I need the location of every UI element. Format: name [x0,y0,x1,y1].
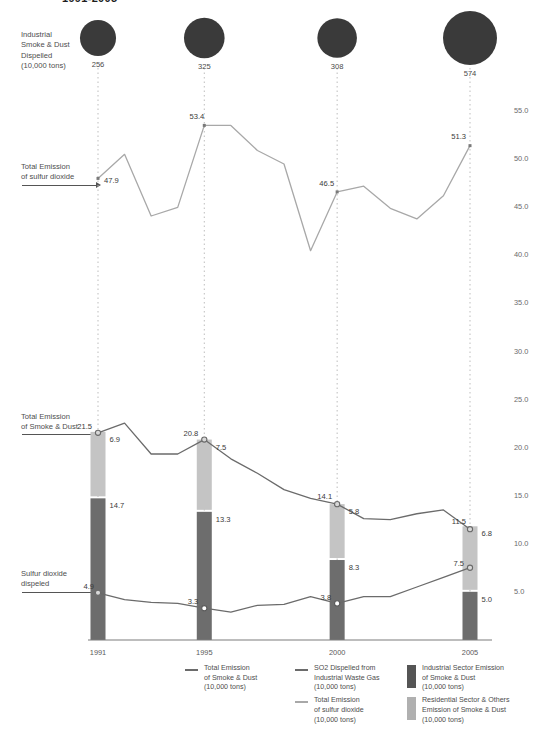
point-marker-so2-total-1995 [203,124,206,127]
bar-label-residential-1991: 6.9 [110,435,121,444]
bubble-label-2000: 308 [331,62,344,71]
legend-item-label: Total Emission of Smoke & Dust (10,000 t… [204,664,285,693]
bubble-1991 [80,20,116,56]
line-series-0 [98,125,470,250]
point-label-so2-total-2000: 46.5 [319,179,334,188]
legend-item: SO2 Dispelled from Industrial Waste Gas … [295,664,400,693]
point-label-smoke-total-1995: 20.8 [184,429,199,438]
bubble-2000 [317,18,357,58]
legend-box-swatch-icon [407,665,416,688]
point-label-so2-industrial-2005: 7.5 [453,559,464,568]
legend-item-label: Residential Sector & Others Emission of … [422,696,537,725]
point-marker-so2-total-2000 [336,190,339,193]
point-label-so2-total-2005: 51.3 [451,132,466,141]
x-axis-layer: 1991199520002005 [88,640,492,657]
point-marker-smoke-total-1991 [95,430,100,435]
line-series-layer [98,125,470,612]
point-label-so2-industrial-1991: 4.9 [83,582,94,591]
point-label-so2-total-1995: 53.4 [190,112,205,121]
point-marker-smoke-total-2000 [335,502,340,507]
point-marker-so2-industrial-1991 [95,590,100,595]
legend-line-swatch-icon [185,669,198,671]
legend-box-swatch-icon [407,697,416,720]
bubble-label-1991: 256 [92,60,105,69]
line-series-1 [98,423,470,529]
bar-label-industrial-2005: 5.0 [482,595,493,604]
point-label-so2-industrial-1995: 3.3 [188,597,199,606]
bubble-2005 [443,11,497,65]
data-labels-layer: 47.953.446.551.321.520.814.111.54.93.33.… [77,112,492,610]
point-marker-so2-industrial-2005 [467,565,472,570]
y-axis-tick-25.0: 25.0 [514,395,528,404]
chart-plot-area: 256325308574 55.050.045.040.035.030.025.… [0,0,537,660]
point-marker-so2-total-2005 [469,144,472,147]
point-marker-so2-total-1991 [97,177,100,180]
stacked-bars-layer [91,432,478,640]
bubbles-layer: 256325308574 [80,11,497,78]
legend-item-label: Total Emission of sulfur dioxide (10,000… [314,696,400,725]
bar-label-residential-2000: 5.8 [349,507,360,516]
legend-line-swatch-icon [295,701,308,703]
y-axis-tick-15.0: 15.0 [514,491,528,500]
bubble-1995 [184,18,225,59]
legend-item: Total Emission of Smoke & Dust (10,000 t… [185,664,285,693]
bar-residential-2005 [463,526,478,590]
x-axis-tick-2000: 2000 [329,648,345,657]
bar-industrial-2000 [330,560,345,640]
bar-industrial-1995 [197,512,212,640]
y-axis-tick-10.0: 10.0 [514,539,528,548]
legend-item: Residential Sector & Others Emission of … [407,696,537,725]
y-axis-tick-35.0: 35.0 [514,298,528,307]
bar-label-industrial-2000: 8.3 [349,563,360,572]
bar-residential-2000 [330,504,345,558]
x-axis-tick-1995: 1995 [196,648,212,657]
bubble-label-1995: 325 [198,62,211,71]
point-marker-so2-industrial-2000 [335,601,340,606]
bar-label-residential-2005: 6.8 [482,529,493,538]
legend-item: Total Emission of sulfur dioxide (10,000… [295,696,400,725]
point-label-smoke-total-2005: 11.5 [452,517,466,526]
bar-industrial-2005 [463,592,478,640]
y-axis-tick-30.0: 30.0 [514,347,528,356]
bar-label-industrial-1991: 14.7 [110,501,125,510]
point-label-smoke-total-1991: 21.5 [77,422,92,431]
point-label-so2-industrial-2000: 3.8 [321,593,332,602]
bar-residential-1991 [91,432,106,496]
y-axis-tick-45.0: 45.0 [514,202,528,211]
bar-label-residential-1995: 7.5 [216,443,227,452]
point-marker-so2-industrial-1995 [202,606,207,611]
point-marker-smoke-total-1995 [202,437,207,442]
y-axis-tick-5.0: 5.0 [514,587,524,596]
point-label-smoke-total-2000: 14.1 [317,492,332,501]
guide-lines-layer [98,68,470,640]
x-axis-tick-1991: 1991 [90,648,106,657]
legend-line-swatch-icon [295,669,308,671]
x-axis-tick-2005: 2005 [462,648,478,657]
legend-item: Industrial Sector Emission of Smoke & Du… [407,664,537,693]
y-axis-tick-20.0: 20.0 [514,443,528,452]
bar-label-industrial-1995: 13.3 [216,515,231,524]
bubble-label-2005: 574 [464,69,477,78]
line-series-2 [98,568,470,612]
y-axis-tick-40.0: 40.0 [514,250,528,259]
point-marker-smoke-total-2005 [467,527,472,532]
y-axis-tick-50.0: 50.0 [514,154,528,163]
bar-residential-1995 [197,440,212,510]
y-axis-tick-55.0: 55.0 [514,106,528,115]
legend-item-label: Industrial Sector Emission of Smoke & Du… [422,664,537,693]
point-label-so2-total-1991: 47.9 [104,176,119,185]
y-axis-layer: 55.050.045.040.035.030.025.020.015.010.0… [514,106,528,597]
bar-industrial-1991 [91,498,106,640]
chart-legend: Total Emission of Smoke & Dust (10,000 t… [185,664,537,726]
chart-page: 1991-2005 Industrial Smoke & Dust Dispel… [0,0,537,748]
legend-item-label: SO2 Dispelled from Industrial Waste Gas … [314,664,400,693]
